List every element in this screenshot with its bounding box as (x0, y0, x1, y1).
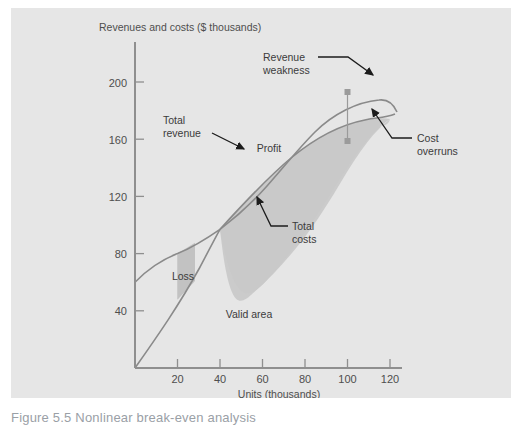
x-axis-title: Units (thousands) (238, 388, 320, 398)
chart-panel: Revenues and costs ($ thousands) (11, 8, 511, 398)
total-costs-label-line2: costs (292, 233, 317, 245)
cost-overruns-label-line1: Cost (417, 132, 439, 144)
figure-root: Revenues and costs ($ thousands) (0, 0, 522, 428)
cost-overruns-label-line2: overruns (417, 145, 458, 157)
profit-label: Profit (257, 142, 282, 154)
total-costs-label-line1: Total (292, 220, 314, 232)
loss-label: Loss (172, 270, 194, 282)
revenue-weakness-label-line2: weakness (262, 64, 310, 76)
y-tick-label-200: 200 (109, 77, 127, 89)
y-tick-label-80: 80 (115, 248, 127, 260)
y-tick-label-120: 120 (109, 191, 127, 203)
x-tick-label-20: 20 (171, 373, 183, 385)
valid-area-label: Valid area (226, 308, 273, 320)
x-tick-label-100: 100 (338, 373, 356, 385)
x-tick-label-80: 80 (299, 373, 311, 385)
total-revenue-label-line2: revenue (163, 127, 201, 139)
revenue-weakness-label-line1: Revenue (263, 51, 305, 63)
figure-caption-text: Figure 5.5 Nonlinear break-even analysis (11, 410, 256, 425)
total-revenue-label-line1: Total (163, 114, 185, 126)
figure-caption: Figure 5.5 Nonlinear break-even analysis (11, 404, 511, 428)
x-tick-label-120: 120 (381, 373, 399, 385)
y-axis-title: Revenues and costs ($ thousands) (99, 21, 261, 33)
revenue-weakness-marker (345, 89, 351, 95)
x-tick-label-60: 60 (256, 373, 268, 385)
break-even-chart: Revenues and costs ($ thousands) (11, 8, 511, 398)
cost-overrun-marker (345, 138, 351, 144)
x-tick-label-40: 40 (214, 373, 226, 385)
y-tick-label-40: 40 (115, 305, 127, 317)
y-tick-label-160: 160 (109, 134, 127, 146)
